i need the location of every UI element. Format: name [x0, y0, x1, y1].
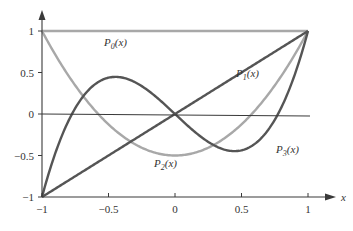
x-tick-label: 0: [172, 203, 178, 215]
y-ticks: [38, 31, 42, 197]
x-tick-label: −0.5: [99, 203, 119, 215]
p2-curve: [42, 31, 308, 156]
p0-label: P0(x): [103, 36, 127, 51]
p2-label: P2(x): [153, 157, 177, 172]
x-axis-label: x: [340, 191, 346, 203]
x-tick-label: 1: [305, 203, 311, 215]
p1-label: P1(x): [235, 67, 259, 82]
x-ticks: [42, 193, 308, 197]
legendre-chart: x −1 −0.5 0 0.5 1 1 0.5 0 −0.5 −1 P0(x) …: [0, 0, 353, 231]
y-tick-label: 1: [29, 25, 35, 37]
y-tick-label: 0.5: [20, 67, 34, 79]
x-tick-label: −1: [36, 203, 48, 215]
p3-label: P3(x): [275, 143, 299, 158]
y-tick-label: −0.5: [14, 150, 34, 162]
y-tick-label: −1: [22, 191, 34, 203]
x-tick-label: 0.5: [235, 203, 249, 215]
y-tick-label: 0: [29, 108, 35, 120]
x-axis-arrow-icon: [325, 194, 336, 201]
y-axis-arrow-icon: [39, 10, 46, 20]
